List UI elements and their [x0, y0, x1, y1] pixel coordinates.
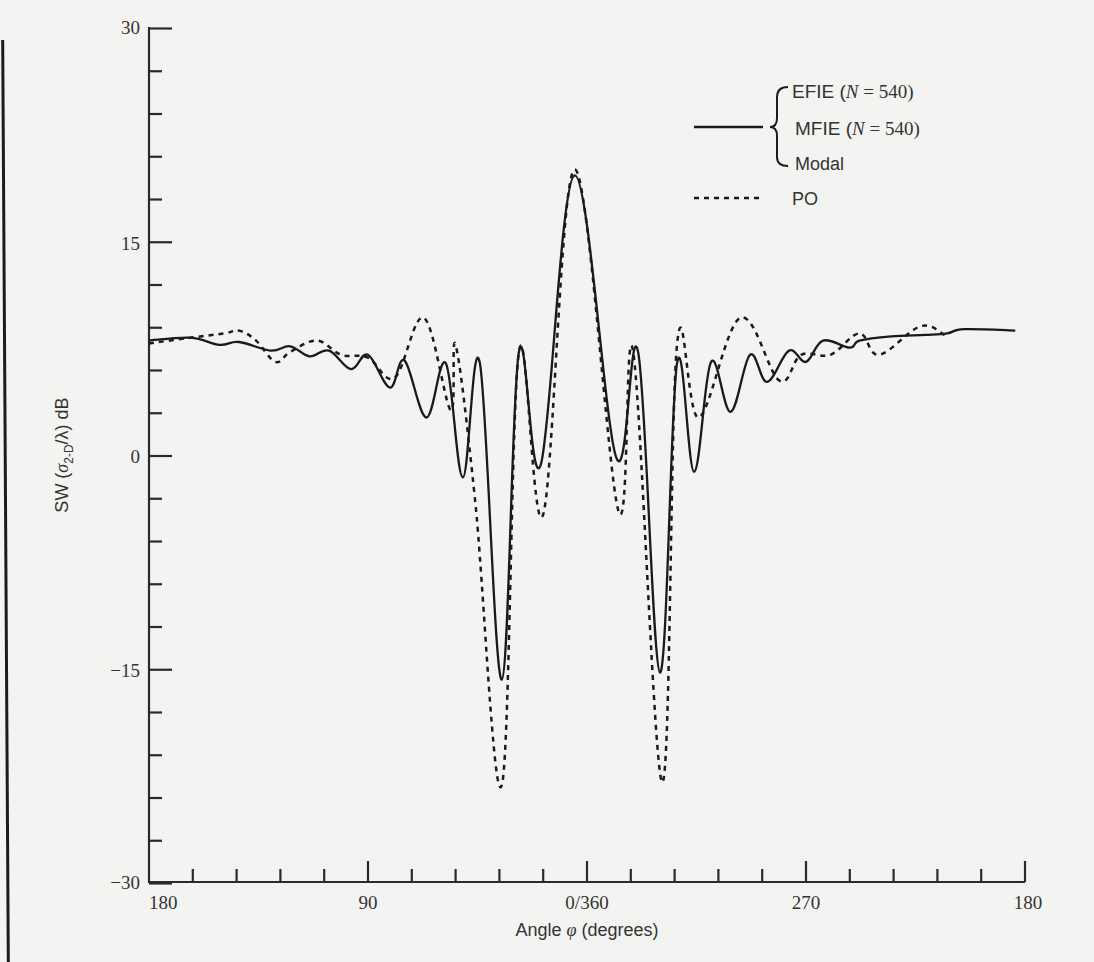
y-ticks — [149, 29, 172, 884]
legend-modal: Modal — [795, 154, 844, 174]
legend-mfie: MFIE (N = 540) — [795, 118, 920, 140]
legend-efie: EFIE (N = 540) — [792, 81, 914, 103]
y-tick-label-15: 15 — [121, 233, 140, 254]
legend-brace — [770, 87, 788, 166]
x-tick-label-180-left: 180 — [149, 892, 178, 913]
x-tick-label-0-360: 0/360 — [565, 892, 608, 913]
y-tick-label-30: 30 — [121, 17, 140, 38]
legend: EFIE (N = 540) MFIE (N = 540) Modal PO — [694, 81, 920, 209]
legend-po: PO — [792, 189, 818, 209]
y-tick-label-minus30: −30 — [110, 872, 140, 893]
axis-lines — [149, 27, 1025, 882]
x-ticks — [193, 861, 1025, 882]
y-tick-label-minus15: −15 — [110, 660, 140, 681]
x-tick-label-270: 270 — [792, 892, 821, 913]
chart: 30 15 0 −15 −30 180 90 0/360 270 180 Ang… — [0, 0, 1094, 962]
x-axis-title: Angle φ (degrees) — [515, 920, 658, 940]
y-tick-label-0: 0 — [131, 446, 141, 467]
x-tick-label-180-right: 180 — [1014, 892, 1043, 913]
y-axis-title: SW (σ2-D/λ) dB — [52, 397, 76, 512]
axes — [149, 27, 1025, 884]
series-po — [149, 170, 945, 788]
x-tick-label-90: 90 — [359, 892, 378, 913]
series-efie-mfie-modal — [149, 175, 1015, 679]
